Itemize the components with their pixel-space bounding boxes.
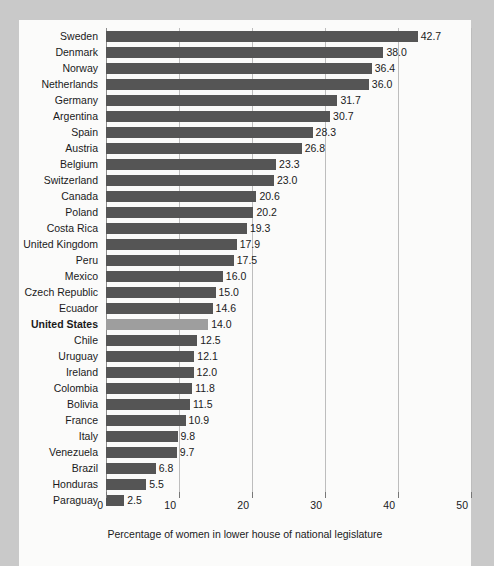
bar: [106, 335, 197, 346]
bar-cell: 14.0: [106, 316, 471, 332]
category-label: Spain: [19, 124, 98, 140]
bar-row: Italy9.8: [19, 428, 471, 444]
bar-value-label: 14.0: [208, 316, 231, 332]
x-axis-title: Percentage of women in lower house of na…: [19, 528, 471, 540]
bar-row: Mexico16.0: [19, 268, 471, 284]
category-label: United States: [19, 316, 98, 332]
bar: [106, 303, 213, 314]
bar-cell: 5.5: [106, 476, 471, 492]
bar-cell: 14.6: [106, 300, 471, 316]
bar-value-label: 11.8: [192, 380, 215, 396]
bar-value-label: 11.5: [190, 396, 213, 412]
category-label: Sweden: [19, 28, 98, 44]
category-label: Denmark: [19, 44, 98, 60]
bar-cell: 9.7: [106, 444, 471, 460]
bar-row: France10.9: [19, 412, 471, 428]
bar-value-label: 19.3: [247, 220, 270, 236]
bar-row: Belgium23.3: [19, 156, 471, 172]
bar-chart: Sweden42.7Denmark38.0Norway36.4Netherlan…: [19, 20, 471, 566]
bar-value-label: 36.4: [372, 60, 395, 76]
bar-value-label: 12.0: [194, 364, 217, 380]
bar-cell: 10.9: [106, 412, 471, 428]
bar-row: Peru17.5: [19, 252, 471, 268]
bar: [106, 159, 276, 170]
bar: [106, 239, 237, 250]
bar-cell: 38.0: [106, 44, 471, 60]
bar-value-label: 23.0: [274, 172, 297, 188]
category-label: Bolivia: [19, 396, 98, 412]
bar: [106, 47, 383, 58]
category-label: Austria: [19, 140, 98, 156]
bar-row: Ireland12.0: [19, 364, 471, 380]
category-label: Poland: [19, 204, 98, 220]
tick-mark-0: [106, 492, 107, 498]
bar-cell: 20.6: [106, 188, 471, 204]
bar-value-label: 36.0: [369, 76, 392, 92]
category-label: Belgium: [19, 156, 98, 172]
bar: [106, 111, 330, 122]
bar-cell: 19.3: [106, 220, 471, 236]
bar: [106, 207, 253, 218]
chart-page: Sweden42.7Denmark38.0Norway36.4Netherlan…: [0, 0, 494, 566]
bar-cell: 12.0: [106, 364, 471, 380]
category-label: Peru: [19, 252, 98, 268]
bar-cell: 11.8: [106, 380, 471, 396]
bar: [106, 255, 234, 266]
bar: [106, 351, 194, 362]
tick-mark-20: [252, 492, 253, 498]
bar-row: Norway36.4: [19, 60, 471, 76]
bar: [106, 127, 313, 138]
tick-mark-10: [179, 492, 180, 498]
bar: [106, 271, 223, 282]
bar-value-label: 28.3: [313, 124, 336, 140]
category-label: Germany: [19, 92, 98, 108]
tick-label-50: 50: [428, 499, 468, 511]
bar-value-label: 15.0: [216, 284, 239, 300]
bar-value-label: 31.7: [337, 92, 360, 108]
bar-row: Ecuador14.6: [19, 300, 471, 316]
bar-value-label: 9.8: [178, 428, 196, 444]
bar-value-label: 6.8: [156, 460, 174, 476]
bar-value-label: 23.3: [276, 156, 299, 172]
bar-row: Switzerland23.0: [19, 172, 471, 188]
bar-cell: 30.7: [106, 108, 471, 124]
tick-mark-30: [325, 492, 326, 498]
tick-label-0: 0: [63, 499, 103, 511]
x-axis-ticks: 01020304050: [106, 492, 471, 518]
bar-rows: Sweden42.7Denmark38.0Norway36.4Netherlan…: [19, 28, 471, 508]
bar: [106, 463, 156, 474]
category-label: Brazil: [19, 460, 98, 476]
category-label: Honduras: [19, 476, 98, 492]
bar-row: Costa Rica19.3: [19, 220, 471, 236]
bar-row: Uruguay12.1: [19, 348, 471, 364]
category-label: Costa Rica: [19, 220, 98, 236]
bar-row: Germany31.7: [19, 92, 471, 108]
gridline-50: [471, 28, 472, 492]
bar-cell: 15.0: [106, 284, 471, 300]
bar-cell: 9.8: [106, 428, 471, 444]
bar-row: Colombia11.8: [19, 380, 471, 396]
bar-cell: 6.8: [106, 460, 471, 476]
bar: [106, 95, 337, 106]
chart-card: Sweden42.7Denmark38.0Norway36.4Netherlan…: [19, 20, 471, 566]
bar: [106, 63, 372, 74]
bar-cell: 23.3: [106, 156, 471, 172]
bar-cell: 17.5: [106, 252, 471, 268]
bar: [106, 223, 247, 234]
bar-row: Bolivia11.5: [19, 396, 471, 412]
bar-value-label: 20.6: [256, 188, 279, 204]
category-label: Uruguay: [19, 348, 98, 364]
bar-cell: 12.5: [106, 332, 471, 348]
bar-value-label: 12.1: [194, 348, 217, 364]
bar: [106, 415, 186, 426]
category-label: Chile: [19, 332, 98, 348]
bar: [106, 399, 190, 410]
bar-value-label: 14.6: [213, 300, 236, 316]
tick-label-10: 10: [136, 499, 176, 511]
bar-row: Venezuela9.7: [19, 444, 471, 460]
category-label: Canada: [19, 188, 98, 204]
category-label: Czech Republic: [19, 284, 98, 300]
bar-row: Honduras5.5: [19, 476, 471, 492]
bar-row: Netherlands36.0: [19, 76, 471, 92]
bar-row: Poland20.2: [19, 204, 471, 220]
